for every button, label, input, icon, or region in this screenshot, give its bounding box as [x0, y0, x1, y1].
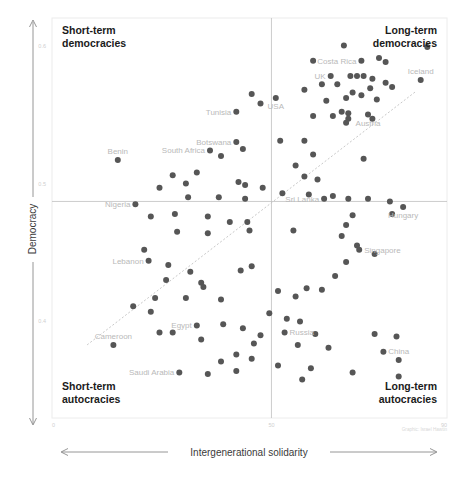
data-point: [200, 284, 206, 290]
point-label-china: China: [388, 347, 409, 356]
data-point: [361, 73, 367, 79]
point-label-russia: Russia: [290, 328, 315, 337]
quadrant-label-short-term-democracies: democracies: [62, 37, 126, 49]
data-point: [216, 194, 222, 200]
data-point: [205, 214, 211, 220]
data-point: [339, 109, 345, 115]
data-point: [418, 77, 424, 83]
data-point: [251, 341, 257, 347]
data-point: [376, 55, 382, 61]
data-point: [205, 371, 211, 377]
point-label-uk: UK: [315, 72, 327, 81]
quadrant-label-short-term-democracies: Short-term: [62, 24, 116, 36]
data-point: [295, 342, 301, 348]
data-point: [350, 90, 356, 96]
data-point: [233, 368, 239, 374]
data-point: [323, 98, 329, 104]
data-point: [141, 247, 147, 253]
data-point: [176, 370, 182, 376]
data-point: [218, 358, 224, 364]
data-point: [148, 214, 154, 220]
point-label-south-africa: South Africa: [162, 146, 206, 155]
data-point: [332, 273, 338, 279]
quadrant-label-short-term-autocracies: autocracies: [62, 393, 121, 405]
data-point: [369, 76, 375, 82]
data-point: [328, 73, 334, 79]
quadrant-label-long-term-autocracies: autocracies: [379, 393, 438, 405]
scatter-chart: 0.60.50.405090Costa RicaUKIcelandUSAAust…: [0, 0, 457, 480]
data-point: [396, 374, 402, 380]
data-point: [350, 370, 356, 376]
data-point: [326, 345, 332, 351]
data-point: [354, 73, 360, 79]
data-point: [148, 309, 154, 315]
data-point: [240, 146, 246, 152]
data-point: [170, 172, 176, 178]
data-point: [227, 219, 233, 225]
data-point: [380, 349, 386, 355]
data-point: [358, 92, 364, 98]
data-point: [304, 285, 310, 291]
data-point: [308, 365, 314, 371]
data-point: [315, 176, 321, 182]
data-point: [293, 294, 299, 300]
data-point: [277, 138, 283, 144]
data-point: [284, 316, 290, 322]
x-tick-label: 50: [268, 422, 274, 428]
data-point: [343, 259, 349, 265]
data-point: [341, 43, 347, 49]
data-point: [374, 96, 380, 102]
y-tick-label: 0.5: [38, 181, 46, 187]
data-point: [172, 211, 178, 217]
quadrant-label-short-term-autocracies: Short-term: [62, 380, 116, 392]
data-point: [130, 303, 136, 309]
data-point: [343, 95, 349, 101]
point-label-saudi-arabia: Saudi Arabia: [129, 368, 175, 377]
data-point: [183, 295, 189, 301]
data-point: [299, 376, 305, 382]
data-point: [249, 356, 255, 362]
point-label-iceland: Iceland: [408, 67, 434, 76]
chart-credit: Graphic: Israel Hawtin: [402, 427, 448, 432]
data-point: [343, 120, 349, 126]
data-point: [236, 179, 242, 185]
quadrant-label-long-term-autocracies: Long-term: [385, 380, 437, 392]
x-axis-title: Intergenerational solidarity: [190, 447, 307, 458]
data-point: [233, 109, 239, 115]
data-point: [334, 81, 340, 87]
data-point: [157, 330, 163, 336]
data-point: [165, 262, 171, 268]
point-label-benin: Benin: [108, 147, 128, 156]
point-label-usa: USA: [268, 102, 285, 111]
point-label-austria: Austria: [356, 119, 381, 128]
data-point: [358, 58, 364, 64]
x-tick-label: 0: [52, 422, 55, 428]
data-point: [310, 152, 316, 158]
data-point: [242, 196, 248, 202]
point-label-egypt: Egypt: [171, 321, 192, 330]
data-point: [339, 233, 345, 239]
data-point: [240, 325, 246, 331]
data-point: [400, 204, 406, 210]
data-point: [301, 174, 307, 180]
data-point: [365, 112, 371, 118]
data-point: [319, 81, 325, 87]
data-point: [218, 296, 224, 302]
data-point: [350, 212, 356, 218]
data-point: [146, 258, 152, 264]
data-point: [361, 156, 367, 162]
point-label-tunisia: Tunisia: [206, 108, 232, 117]
data-point: [282, 330, 288, 336]
data-point: [132, 201, 138, 207]
quadrant-label-long-term-democracies: democracies: [373, 37, 437, 49]
quadrant-label-long-term-democracies: Long-term: [385, 24, 437, 36]
data-point: [273, 95, 279, 101]
data-point: [242, 182, 248, 188]
data-point: [249, 91, 255, 97]
data-point: [396, 357, 402, 363]
data-point: [319, 287, 325, 293]
data-point: [266, 310, 272, 316]
y-tick-label: 0.6: [38, 43, 46, 49]
data-point: [194, 170, 200, 176]
point-label-costa-rica: Costa Rica: [317, 57, 357, 66]
